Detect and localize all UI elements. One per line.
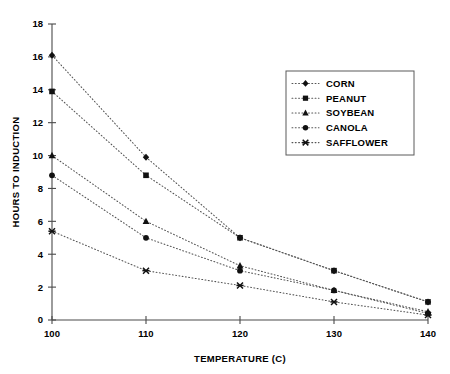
- marker-circle: [331, 288, 337, 294]
- legend-item-label: CORN: [326, 78, 355, 89]
- x-tick-label: 100: [44, 328, 60, 339]
- series-line: [52, 175, 428, 313]
- marker-square: [237, 235, 243, 241]
- y-tick-label: 14: [32, 84, 43, 95]
- chart-container: 024681012141618 100110120130140 TEMPERAT…: [0, 0, 450, 374]
- marker-square: [303, 96, 308, 101]
- marker-x: [236, 282, 243, 288]
- legend-item-label: CANOLA: [326, 122, 368, 133]
- marker-circle: [303, 125, 308, 130]
- legend-item-label: PEANUT: [326, 93, 366, 104]
- x-axis-title: TEMPERATURE (C): [194, 353, 286, 364]
- x-tick-label: 130: [326, 328, 342, 339]
- marker-x: [330, 299, 337, 305]
- series-soybean: [49, 152, 432, 315]
- legend-item-label: SAFFLOWER: [326, 137, 388, 148]
- legend-item-label: SOYBEAN: [326, 107, 374, 118]
- x-tick-label: 140: [420, 328, 436, 339]
- x-tick-label: 110: [138, 328, 153, 339]
- y-tick-label: 12: [32, 117, 43, 128]
- marker-circle: [237, 268, 243, 274]
- y-tick-label: 6: [38, 216, 43, 227]
- x-tick-label: 120: [232, 328, 248, 339]
- marker-triangle: [237, 262, 244, 268]
- y-axis-title: HOURS TO INDUCTION: [10, 117, 21, 228]
- marker-square: [49, 89, 55, 95]
- marker-square: [143, 172, 149, 178]
- line-chart: 024681012141618 100110120130140 TEMPERAT…: [0, 0, 450, 374]
- marker-x: [142, 268, 149, 274]
- marker-triangle: [143, 218, 150, 224]
- marker-square: [331, 268, 337, 274]
- y-tick-label: 0: [38, 314, 43, 325]
- y-tick-label: 18: [32, 18, 43, 29]
- y-tick-label: 16: [32, 51, 43, 62]
- axes: [52, 24, 428, 320]
- series-line: [52, 156, 428, 312]
- chart-legend: CORNPEANUTSOYBEANCANOLASAFFLOWER: [286, 71, 414, 155]
- y-tick-label: 8: [38, 183, 43, 194]
- y-tick-label: 4: [38, 249, 44, 260]
- y-tick-label: 10: [32, 150, 43, 161]
- marker-circle: [49, 172, 55, 178]
- marker-square: [425, 299, 431, 305]
- y-tick-label: 2: [38, 282, 43, 293]
- marker-circle: [143, 235, 149, 241]
